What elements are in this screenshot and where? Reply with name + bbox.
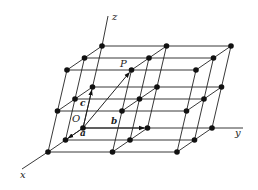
lattice-edge-z: [157, 46, 167, 87]
lattice-node: [64, 67, 70, 73]
lattice-node: [146, 55, 152, 61]
lattice-edge-z: [148, 87, 158, 128]
lattice-diagram: x y z a b c O P: [0, 0, 258, 190]
lattice-edge-z: [140, 58, 150, 99]
lattice-node: [154, 84, 160, 90]
lattice-edge-z: [195, 99, 205, 140]
lattice-edge-z: [93, 46, 103, 87]
lattice-node: [174, 149, 180, 155]
lattice-node: [45, 149, 51, 155]
lattice-node: [90, 84, 96, 90]
lattice-node: [119, 108, 125, 114]
diagram-labels: x y z a b c O P: [20, 11, 241, 180]
lattice-node: [192, 137, 198, 143]
point-p-label: P: [119, 58, 127, 69]
vector-a-label: a: [80, 128, 86, 138]
lattice-node: [193, 67, 199, 73]
lattice-node: [219, 84, 225, 90]
z-axis-label: z: [111, 11, 118, 22]
lattice-node: [145, 125, 151, 131]
z-axis-line: [102, 16, 108, 46]
vector-OP-arrow: [83, 73, 129, 128]
lattice-edge-z: [48, 111, 58, 152]
lattice-node: [201, 96, 207, 102]
lattice-edge-z: [204, 58, 214, 99]
lattice-edge-z: [58, 70, 68, 111]
lattice-node: [164, 43, 170, 49]
lattice-svg: x y z a b c O P: [0, 0, 258, 190]
lattice-edge-z: [75, 58, 85, 99]
lattice-nodes: [45, 43, 234, 155]
coordinate-axes: [22, 16, 243, 169]
lattice-node: [211, 55, 217, 61]
lattice-node: [63, 137, 69, 143]
lattice-node: [110, 149, 116, 155]
lattice-edge-z: [130, 99, 140, 140]
lattice-node: [72, 96, 78, 102]
lattice-edge-z: [212, 87, 222, 128]
lattice-node: [129, 67, 135, 73]
lattice-edge-z: [222, 46, 232, 87]
lattice-node: [209, 125, 215, 131]
lattice-edge-z: [177, 111, 187, 152]
lattice-node: [137, 96, 143, 102]
lattice-edge-z: [187, 70, 197, 111]
lattice-node: [82, 55, 88, 61]
origin-label: O: [72, 113, 80, 124]
lattice-node: [99, 43, 105, 49]
x-axis-line: [22, 152, 48, 169]
lattice-node: [127, 137, 133, 143]
vector-b-label: b: [111, 116, 117, 126]
lattice-node: [55, 108, 61, 114]
x-axis-label: x: [20, 169, 26, 180]
y-axis-label: y: [234, 127, 241, 138]
lattice-node: [228, 43, 234, 49]
lattice-node: [184, 108, 190, 114]
vector-c-label: c: [80, 98, 86, 108]
